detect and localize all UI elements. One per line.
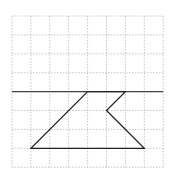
grid-diagram <box>0 0 173 170</box>
